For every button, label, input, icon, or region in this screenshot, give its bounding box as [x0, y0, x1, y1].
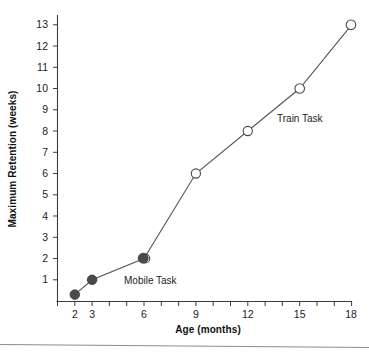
mobile-task-point-6	[138, 253, 148, 263]
x-tick-label-6: 6	[141, 308, 147, 320]
train-task-point-18	[346, 20, 356, 30]
y-tick-label-3: 3	[42, 231, 48, 243]
x-axis-tick-labels: 2 3 6 9 12 15 18	[72, 308, 357, 320]
mobile-task-point-3	[87, 275, 97, 285]
mobile-task-annotation: Mobile Task	[124, 275, 178, 286]
chart-figure: 1 2 3 4 5 6 7 8 9 10 11 12 13	[0, 0, 369, 355]
train-task-markers	[141, 20, 356, 263]
x-tick-label-15: 15	[294, 308, 306, 320]
y-tick-label-7: 7	[42, 146, 48, 158]
train-task-point-9	[191, 169, 200, 178]
axes	[57, 15, 353, 302]
y-tick-label-4: 4	[42, 210, 48, 222]
train-task-point-15	[295, 84, 305, 94]
x-tick-label-12: 12	[242, 308, 254, 320]
x-axis-title: Age (months)	[175, 324, 241, 335]
mobile-task-point-2	[70, 290, 80, 300]
y-tick-label-2: 2	[42, 252, 48, 264]
y-tick-label-5: 5	[42, 188, 48, 200]
x-tick-label-18: 18	[345, 308, 357, 320]
y-tick-label-10: 10	[36, 82, 48, 94]
retention-polyline	[75, 25, 352, 295]
y-axis-ticks	[53, 25, 58, 280]
x-tick-label-2: 2	[72, 308, 78, 320]
y-tick-label-1: 1	[42, 273, 48, 285]
x-tick-label-3: 3	[89, 308, 95, 320]
y-tick-label-9: 9	[42, 103, 48, 115]
retention-line-chart: 1 2 3 4 5 6 7 8 9 10 11 12 13	[0, 0, 369, 355]
x-tick-label-9: 9	[193, 308, 199, 320]
data-series-lines	[75, 25, 352, 295]
train-task-point-12	[243, 126, 252, 135]
y-tick-label-12: 12	[36, 40, 48, 52]
page-separator-rule	[0, 345, 369, 348]
y-tick-label-8: 8	[42, 125, 48, 137]
train-task-annotation: Train Task	[277, 113, 324, 124]
x-axis-ticks	[58, 302, 352, 307]
y-tick-label-11: 11	[37, 61, 48, 73]
y-axis-tick-labels: 1 2 3 4 5 6 7 8 9 10 11 12 13	[36, 18, 48, 285]
y-axis-title: Maximum Retention (weeks)	[7, 91, 18, 228]
y-tick-label-6: 6	[42, 167, 48, 179]
y-tick-label-13: 13	[36, 18, 48, 30]
